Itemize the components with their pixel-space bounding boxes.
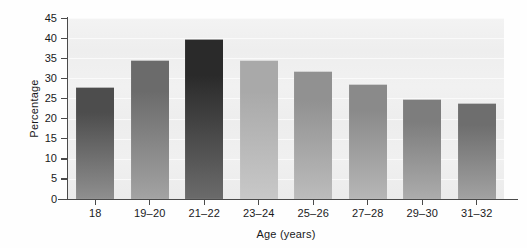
y-axis-tick-label: 45	[27, 13, 57, 24]
x-axis-tick	[422, 200, 423, 205]
y-axis-tick-label: 35	[27, 53, 57, 64]
x-axis-tick	[367, 200, 368, 205]
x-axis-tick	[149, 200, 150, 205]
y-axis-title: Percentage	[27, 18, 41, 199]
x-axis-line	[58, 199, 518, 200]
bar	[349, 84, 387, 199]
gridline	[68, 38, 504, 39]
y-axis-tick-label: 10	[27, 153, 57, 164]
y-axis-tick	[61, 199, 67, 200]
y-axis-tick-label: 20	[27, 113, 57, 124]
bar	[403, 99, 441, 199]
y-axis-tick	[61, 38, 67, 39]
x-axis-tick-label: 25–26	[283, 207, 343, 219]
bar	[185, 39, 223, 199]
x-axis-tick-label: 31–32	[447, 207, 507, 219]
x-axis-tick-label: 19–20	[120, 207, 180, 219]
x-axis-tick	[204, 200, 205, 205]
y-axis-tick	[61, 118, 67, 119]
x-axis-tick	[95, 200, 96, 205]
x-axis-tick-label: 21–22	[174, 207, 234, 219]
x-axis-tick	[258, 200, 259, 205]
gridline	[68, 18, 504, 19]
bar-chart-figure: Percentage Age (years) 05101520253035404…	[0, 0, 527, 248]
bar	[458, 103, 496, 199]
y-axis-tick-label: 30	[27, 73, 57, 84]
y-axis-tick	[61, 98, 67, 99]
y-axis-tick	[61, 158, 67, 159]
x-axis-tick-label: 18	[65, 207, 125, 219]
x-axis-tick	[313, 200, 314, 205]
bar	[240, 60, 278, 199]
bar	[294, 71, 332, 199]
gridline	[68, 58, 504, 59]
bar	[76, 87, 114, 199]
plot-area	[68, 18, 504, 199]
x-axis-tick-label: 29–30	[392, 207, 452, 219]
y-axis-tick	[61, 18, 67, 19]
bar	[131, 60, 169, 199]
y-axis-tick-label: 15	[27, 133, 57, 144]
x-axis-title: Age (years)	[68, 228, 504, 240]
x-axis-tick-label: 23–24	[229, 207, 289, 219]
y-axis-line	[67, 17, 68, 200]
y-axis-tick	[61, 58, 67, 59]
x-axis-tick-label: 27–28	[338, 207, 398, 219]
y-axis-tick	[61, 178, 67, 179]
y-axis-tick	[61, 78, 67, 79]
y-axis-tick-label: 40	[27, 33, 57, 44]
y-axis-tick-label: 25	[27, 93, 57, 104]
y-axis-tick-label: 5	[27, 173, 57, 184]
y-axis-tick	[61, 138, 67, 139]
y-axis-tick-label: 0	[27, 194, 57, 205]
x-axis-tick	[476, 200, 477, 205]
